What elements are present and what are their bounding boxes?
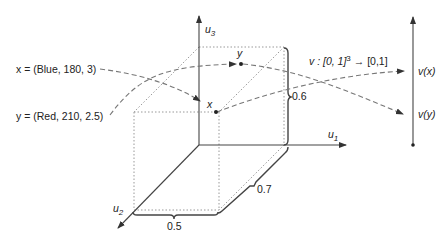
point-x-label: x bbox=[206, 98, 213, 110]
point-y-label: y bbox=[236, 47, 243, 59]
x-def-to-x bbox=[100, 69, 200, 101]
y-definition: y = (Red, 210, 2.5) bbox=[16, 110, 103, 122]
mapping-definition: v : [0, 1]3 → [0,1] bbox=[309, 54, 388, 67]
x-definition: x = (Blue, 180, 3) bbox=[16, 63, 96, 75]
vy-label: v(y) bbox=[418, 108, 436, 120]
width-brace bbox=[133, 212, 218, 219]
vx-label: v(x) bbox=[418, 65, 436, 77]
y-to-vy bbox=[243, 64, 403, 114]
height-brace bbox=[284, 48, 291, 145]
x-to-vx bbox=[217, 71, 404, 112]
height-label: 0.6 bbox=[292, 90, 307, 102]
value-axis-origin bbox=[411, 143, 415, 147]
point-x bbox=[214, 110, 218, 114]
axes bbox=[118, 16, 346, 228]
mapping-lines bbox=[100, 64, 404, 115]
u3-label: u3 bbox=[205, 23, 216, 38]
u1-label: u1 bbox=[328, 128, 338, 143]
u2-label: u2 bbox=[113, 202, 124, 217]
point-y bbox=[239, 62, 243, 66]
value-function-diagram: u3 u1 u2 y x x = (Blue, 180, 3) y = (Red… bbox=[0, 0, 448, 241]
depth-label: 0.7 bbox=[257, 183, 272, 195]
width-label: 0.5 bbox=[167, 220, 182, 232]
y-def-to-y bbox=[110, 64, 236, 115]
depth-brace bbox=[218, 147, 288, 213]
